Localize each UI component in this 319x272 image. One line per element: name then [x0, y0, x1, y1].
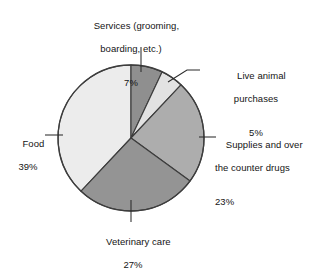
- pie-label-veterinary-care: Veterinary care 27%: [78, 224, 188, 272]
- pie-label-supplies-percent: 23%: [215, 196, 317, 208]
- pie-label-supplies-line1: Supplies and over: [226, 139, 303, 150]
- pie-label-veterinary-care-percent: 27%: [78, 259, 188, 271]
- pie-label-services-percent: 7%: [66, 77, 196, 89]
- pie-label-live-animal-line2: purchases: [200, 93, 312, 105]
- pie-label-live-animal-line1: Live animal: [237, 70, 286, 81]
- pie-label-food: Food 39%: [4, 126, 52, 195]
- pie-label-services-line2: boarding, etc.): [66, 43, 196, 55]
- pie-label-veterinary-care-line1: Veterinary care: [106, 236, 171, 247]
- pie-label-services-line1: Services (grooming,: [94, 20, 179, 31]
- pie-label-supplies: Supplies and over the counter drugs 23%: [215, 127, 317, 231]
- pie-label-food-percent: 39%: [4, 161, 52, 173]
- pie-label-supplies-line2: the counter drugs: [215, 162, 317, 174]
- pie-label-services: Services (grooming, boarding, etc.) 7%: [66, 8, 196, 112]
- pie-label-food-line1: Food: [22, 138, 44, 149]
